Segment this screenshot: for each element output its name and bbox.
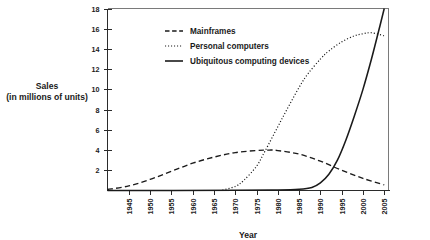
legend-label-ubiquitous-computing-devices: Ubiquitous computing devices — [190, 57, 310, 66]
y-axis-title-line2: (in millions of units) — [6, 92, 88, 102]
y-axis-tick-label: 12 — [92, 65, 100, 74]
x-axis-tick-label: 1955 — [167, 199, 176, 215]
x-axis-tick-label: 1975 — [253, 199, 262, 215]
y-axis-tick-label: 10 — [92, 85, 100, 94]
y-axis-title-line1: Sales — [36, 81, 59, 91]
y-axis-tick-label: 2 — [96, 166, 100, 175]
y-axis-tick-label: 4 — [96, 146, 100, 155]
legend-label-personal-computers: Personal computers — [190, 42, 269, 51]
x-axis-tick-labels: 1945195019551960196519701975198019851990… — [125, 199, 389, 215]
y-axis-tick-labels: 24681012141618 — [92, 5, 100, 175]
x-axis-tick-label: 1990 — [316, 199, 325, 215]
y-axis-tick-label: 8 — [96, 106, 100, 115]
legend-label-mainframes: Mainframes — [190, 27, 236, 36]
chart-container: 24681012141618 1945195019551960196519701… — [0, 0, 430, 240]
x-axis-tick-label: 1965 — [210, 199, 219, 215]
series-group — [108, 9, 385, 191]
y-axis-tick-label: 18 — [92, 5, 100, 14]
x-axis-tick-label: 2000 — [359, 199, 368, 215]
x-axis-tick-label: 1995 — [338, 199, 347, 215]
chart-legend: Mainframes Personal computers Ubiquitous… — [165, 27, 310, 66]
sales-line-chart: 24681012141618 1945195019551960196519701… — [0, 0, 430, 240]
x-axis-tick-label: 1960 — [189, 199, 198, 215]
x-axis-tick-label: 1980 — [274, 199, 283, 215]
x-axis-tick-label: 1945 — [125, 199, 134, 215]
y-axis-tick-label: 6 — [96, 126, 100, 135]
x-axis-tick-label: 1950 — [146, 199, 155, 215]
series-line-ubiquitous-computing-devices — [108, 9, 385, 191]
x-axis-tick-label: 2005 — [380, 199, 389, 215]
x-axis-tick-label: 1985 — [295, 199, 304, 215]
series-line-mainframes — [108, 150, 385, 189]
y-axis-tick-label: 16 — [92, 25, 100, 34]
y-axis-tick-label: 14 — [92, 45, 100, 54]
x-axis-title: Year — [239, 230, 258, 240]
x-axis-tick-label: 1970 — [231, 199, 240, 215]
